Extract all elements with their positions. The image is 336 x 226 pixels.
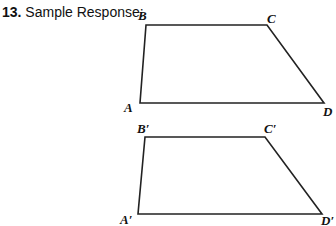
vertex-label-a-prime: A′ [119, 212, 133, 226]
vertex-label-c-prime: C′ [264, 121, 277, 136]
vertex-label-b: B [137, 8, 147, 23]
trapezoid-shape [140, 25, 324, 103]
trapezoid-abcd: B C D A [123, 8, 333, 119]
vertex-label-d: D [322, 104, 333, 119]
vertex-label-b-prime: B′ [136, 121, 150, 136]
vertex-label-a: A [123, 100, 133, 115]
vertex-label-c: C [267, 11, 276, 26]
trapezoid-figures: B C D A B′ C′ D′ A′ [0, 0, 336, 226]
vertex-label-d-prime: D′ [320, 213, 334, 226]
trapezoid-image-shape [138, 137, 322, 214]
trapezoid-image: B′ C′ D′ A′ [119, 121, 334, 226]
